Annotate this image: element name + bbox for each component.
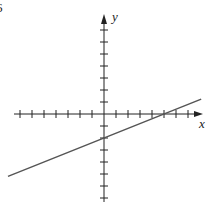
plotted-line	[8, 99, 201, 176]
figure-number: 6	[0, 0, 3, 15]
y-axis-label: y	[110, 9, 118, 24]
axes	[14, 14, 203, 202]
line-series	[8, 99, 201, 176]
x-axis-label: x	[198, 116, 205, 131]
y-axis-arrow-icon	[101, 14, 107, 24]
coordinate-plane: 6 y x	[0, 0, 216, 212]
